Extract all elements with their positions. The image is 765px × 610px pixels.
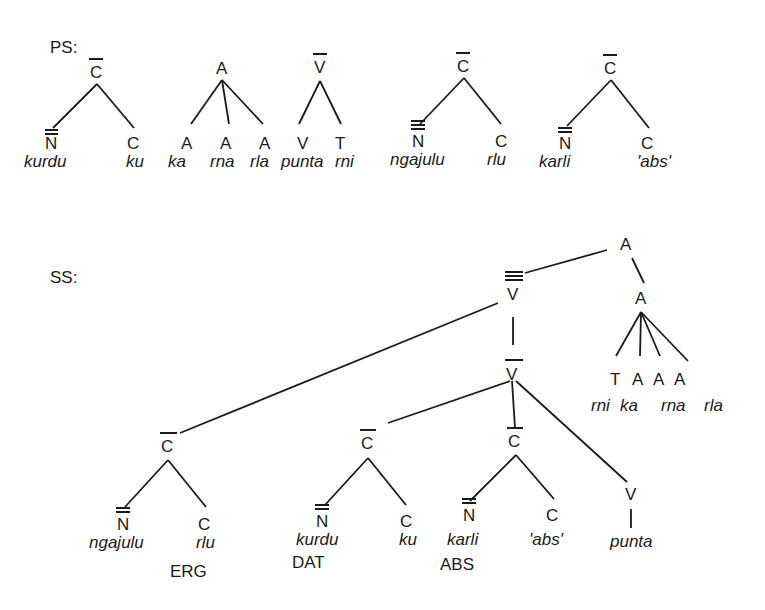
node-label: A xyxy=(635,289,647,308)
node-label: N xyxy=(45,134,57,153)
edge xyxy=(641,312,688,361)
node-label: C xyxy=(495,132,507,151)
ss-tree: A V A T A A A rni ka rna rla V xyxy=(89,235,723,581)
node-label: A xyxy=(632,370,644,389)
word: rlu xyxy=(487,150,506,169)
node-label: C xyxy=(361,434,373,453)
ps-tree-3: V V punta T rni xyxy=(280,54,355,171)
word: ngajulu xyxy=(390,150,445,169)
word: rla xyxy=(250,152,269,171)
ps-header: PS: xyxy=(50,38,77,57)
word: rla xyxy=(704,396,723,415)
word: 'abs' xyxy=(529,530,564,549)
word: kurdu xyxy=(296,530,339,549)
edge xyxy=(180,303,498,433)
node-label: C xyxy=(546,506,558,525)
node-label: C xyxy=(508,432,520,451)
ps-tree-2: A A ka A rna A rla xyxy=(168,59,271,171)
ps-tree-5: C N karli C 'abs' xyxy=(539,55,672,171)
edge xyxy=(464,78,501,124)
node-label: A xyxy=(674,370,686,389)
edge xyxy=(512,381,515,428)
node-label: C xyxy=(400,512,412,531)
word: rna xyxy=(661,396,686,415)
edge xyxy=(420,78,464,124)
case-label: ERG xyxy=(170,562,207,581)
edge xyxy=(516,381,627,482)
word: ka xyxy=(168,152,186,171)
node-label: C xyxy=(198,515,210,534)
word: rni xyxy=(591,396,611,415)
case-label: DAT xyxy=(292,553,325,572)
node-label: A xyxy=(220,134,232,153)
node-label: C xyxy=(457,57,469,76)
edge xyxy=(640,312,641,356)
node-label: A xyxy=(181,134,193,153)
word: karli xyxy=(447,530,479,549)
node-label: N xyxy=(559,134,571,153)
node-label: V xyxy=(314,58,326,77)
word: punta xyxy=(609,532,653,551)
edge xyxy=(320,81,341,124)
node-label: C xyxy=(604,59,616,78)
node-label: N xyxy=(117,515,129,534)
edge xyxy=(53,84,97,128)
word: rlu xyxy=(196,533,215,552)
edge xyxy=(388,381,510,423)
word: karli xyxy=(539,152,571,171)
node-label: T xyxy=(335,134,345,153)
word: rna xyxy=(210,152,235,171)
edge xyxy=(632,258,644,283)
node-label: N xyxy=(463,506,475,525)
node-label: V xyxy=(507,285,519,304)
node-label: A xyxy=(216,59,228,78)
edge xyxy=(525,250,607,273)
word: ku xyxy=(399,530,418,549)
node-label: N xyxy=(412,132,424,151)
ps-tree-1: C N kurdu C ku xyxy=(24,59,145,171)
word: ka xyxy=(620,396,638,415)
ss-header: SS: xyxy=(50,268,77,287)
edge xyxy=(516,455,554,499)
edge xyxy=(641,312,660,356)
node-label: C xyxy=(161,437,173,456)
node-label: A xyxy=(259,134,271,153)
edge xyxy=(191,80,222,124)
node-label: N xyxy=(316,512,328,531)
node-label: V xyxy=(625,485,637,504)
word: 'abs' xyxy=(637,152,672,171)
word: ngajulu xyxy=(89,533,144,552)
ps-tree-4: C N ngajulu C rlu xyxy=(390,53,507,169)
case-label: ABS xyxy=(440,555,474,574)
node-label: C xyxy=(90,63,102,82)
edge xyxy=(616,312,641,356)
edge xyxy=(299,81,320,124)
edge xyxy=(567,80,611,126)
edge xyxy=(368,458,406,505)
edge xyxy=(168,460,206,507)
edge xyxy=(611,80,649,128)
node-label: C xyxy=(127,134,139,153)
word: kurdu xyxy=(24,152,67,171)
syntax-tree-diagram: PS: SS: C N kurdu C ku A A ka A rna A rl… xyxy=(0,0,765,610)
edge xyxy=(97,84,134,128)
node-label: A xyxy=(653,370,665,389)
node-label: A xyxy=(620,235,632,254)
word: punta xyxy=(280,152,324,171)
word: ku xyxy=(126,152,145,171)
edge xyxy=(125,460,168,507)
edge xyxy=(470,455,516,501)
node-label: V xyxy=(297,134,309,153)
node-label: C xyxy=(641,134,653,153)
word: rni xyxy=(335,152,355,171)
edge xyxy=(325,458,368,505)
node-label: T xyxy=(610,370,620,389)
